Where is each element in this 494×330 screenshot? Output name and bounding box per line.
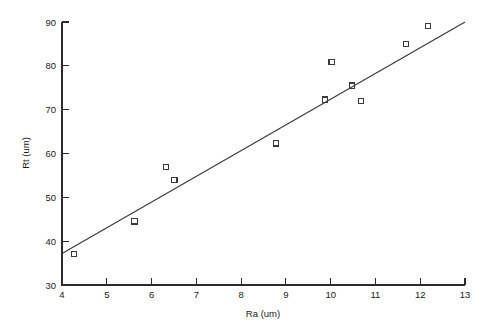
plot-canvas: 30405060708090 45678910111213 Ra (um) Rt… bbox=[0, 0, 494, 330]
y-tick-label: 90 bbox=[45, 17, 56, 28]
x-tick-label: 13 bbox=[460, 289, 471, 300]
y-tick-label: 70 bbox=[45, 104, 56, 115]
x-tick-label: 9 bbox=[283, 289, 288, 300]
x-tick-label: 5 bbox=[104, 289, 109, 300]
x-tick-label: 6 bbox=[149, 289, 154, 300]
y-tick-label: 80 bbox=[45, 60, 56, 71]
y-tick-label: 50 bbox=[45, 192, 56, 203]
x-tick-label: 8 bbox=[238, 289, 243, 300]
x-tick-label: 7 bbox=[194, 289, 199, 300]
x-axis-title: Ra (um) bbox=[246, 308, 280, 319]
y-tick-label: 40 bbox=[45, 236, 56, 247]
y-axis-title: Rt (um) bbox=[20, 137, 31, 169]
y-tick-label: 30 bbox=[45, 280, 56, 291]
x-tick-label: 12 bbox=[415, 289, 426, 300]
x-tick-label: 4 bbox=[59, 289, 64, 300]
x-tick-label: 11 bbox=[371, 289, 381, 300]
scatter-plot-figure: 30405060708090 45678910111213 Ra (um) Rt… bbox=[0, 0, 494, 330]
x-tick-label: 10 bbox=[325, 289, 336, 300]
y-tick-label: 60 bbox=[45, 148, 56, 159]
